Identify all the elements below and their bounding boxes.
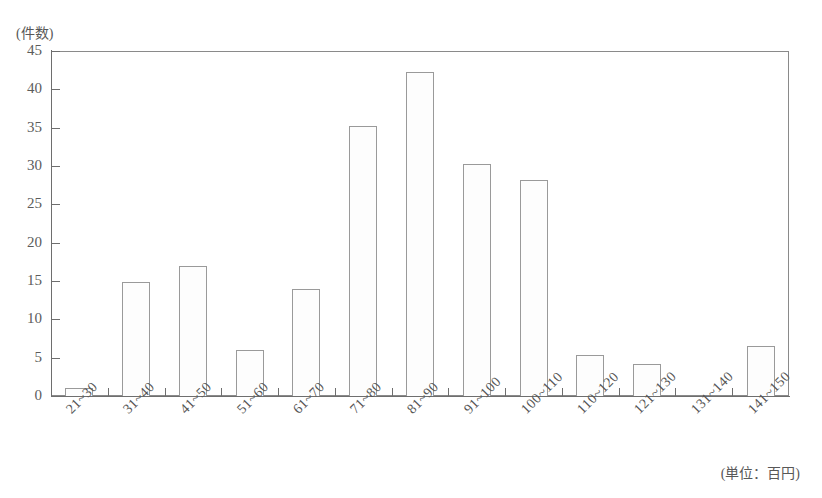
y-axis-line <box>51 50 52 397</box>
y-tick-25 <box>51 204 60 205</box>
y-axis-unit-label: (件数) <box>16 22 53 42</box>
histogram-chart: (件数) 051015202530354045 21~3031~4041~505… <box>0 0 822 498</box>
bar-100~110 <box>520 180 548 396</box>
x-tick-4 <box>278 388 279 397</box>
y-tick-label-20: 20 <box>8 235 42 250</box>
y-tick-label-5: 5 <box>8 350 42 365</box>
y-tick-label-30: 30 <box>8 158 42 173</box>
x-tick-11 <box>675 388 676 397</box>
x-tick-1 <box>108 388 109 397</box>
y-tick-label-0: 0 <box>8 388 42 403</box>
y-tick-label-40: 40 <box>8 81 42 96</box>
x-tick-7 <box>448 388 449 397</box>
y-tick-5 <box>51 358 60 359</box>
x-tick-3 <box>221 388 222 397</box>
x-tick-8 <box>505 388 506 397</box>
bar-91~100 <box>463 164 491 396</box>
y-tick-35 <box>51 128 60 129</box>
x-tick-9 <box>562 388 563 397</box>
y-tick-15 <box>51 281 60 282</box>
y-tick-label-25: 25 <box>8 196 42 211</box>
x-tick-10 <box>619 388 620 397</box>
bar-81~90 <box>406 72 434 396</box>
y-tick-45 <box>51 51 60 52</box>
x-axis-unit-note: (単位：百円) <box>721 462 800 482</box>
y-tick-30 <box>51 166 60 167</box>
y-tick-40 <box>51 89 60 90</box>
y-tick-20 <box>51 243 60 244</box>
y-tick-label-15: 15 <box>8 273 42 288</box>
y-tick-10 <box>51 319 60 320</box>
bar-41~50 <box>179 266 207 396</box>
x-tick-12 <box>732 388 733 397</box>
bar-71~80 <box>349 126 377 396</box>
x-tick-2 <box>165 388 166 397</box>
y-tick-label-45: 45 <box>8 43 42 58</box>
y-tick-label-10: 10 <box>8 311 42 326</box>
x-tick-6 <box>392 388 393 397</box>
y-tick-label-35: 35 <box>8 120 42 135</box>
x-tick-5 <box>335 388 336 397</box>
